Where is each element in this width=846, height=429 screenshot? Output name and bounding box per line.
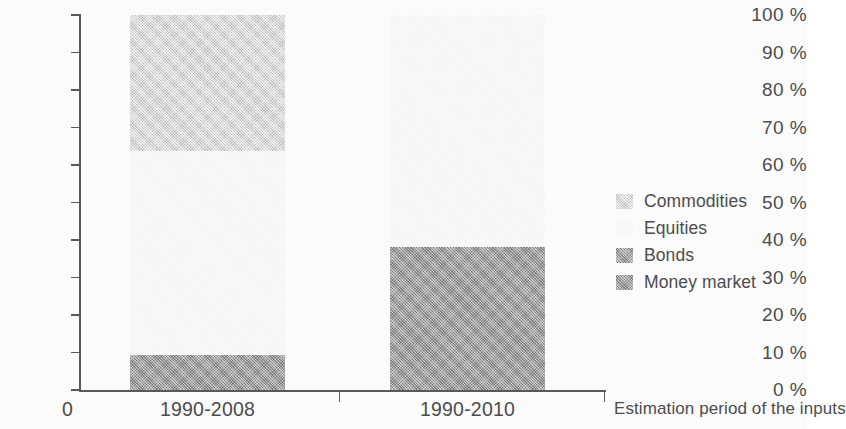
bar-segment-equities xyxy=(130,151,285,355)
x-axis-title: Estimation period of the inputs xyxy=(614,399,846,419)
legend-item-commodities[interactable]: Commodities xyxy=(616,188,756,215)
x-axis-line xyxy=(79,390,606,392)
bar-segment-money-market xyxy=(130,355,285,390)
legend-label: Money market xyxy=(644,272,756,293)
y-axis-tick xyxy=(71,314,80,315)
legend-label: Equities xyxy=(644,218,707,239)
commodities-swatch xyxy=(616,194,633,209)
money-market-swatch xyxy=(616,275,633,290)
y-axis-tick xyxy=(71,52,80,53)
y-axis-tick-label: 0 % xyxy=(741,379,807,401)
y-axis-tick xyxy=(71,89,80,90)
bar-segment-money-market xyxy=(390,247,545,390)
y-axis-tick-label: 10 % xyxy=(741,342,807,364)
y-axis-tick-label: 90 % xyxy=(741,42,807,64)
chart-legend: CommoditiesEquitiesBondsMoney market xyxy=(616,188,756,296)
y-axis-tick xyxy=(71,239,80,240)
y-axis-tick xyxy=(71,389,80,390)
y-axis-tick-label: 20 % xyxy=(741,304,807,326)
bar-1990-2008 xyxy=(130,15,285,390)
equities-swatch xyxy=(616,221,633,236)
x-axis-tick-separator xyxy=(339,391,340,402)
bonds-swatch xyxy=(616,248,633,263)
y-axis-tick xyxy=(71,14,80,15)
y-axis-tick-label: 70 % xyxy=(741,117,807,139)
legend-label: Bonds xyxy=(644,245,694,266)
bar-1990-2010 xyxy=(390,15,545,390)
legend-label: Commodities xyxy=(644,191,747,212)
plot-area xyxy=(80,15,605,390)
y-axis-tick xyxy=(71,277,80,278)
x-axis-category-label: 1990-2010 xyxy=(378,398,558,421)
origin-label: 0 xyxy=(62,398,73,421)
legend-item-money-market[interactable]: Money market xyxy=(616,269,756,296)
legend-item-equities[interactable]: Equities xyxy=(616,215,756,242)
y-axis-tick-label: 60 % xyxy=(741,154,807,176)
bar-segment-commodities xyxy=(130,15,285,151)
bar-segment-equities xyxy=(390,15,545,247)
x-axis-tick-end xyxy=(604,391,605,402)
y-axis-tick-label: 80 % xyxy=(741,79,807,101)
y-axis-tick xyxy=(71,352,80,353)
y-axis-tick-label: 100 % xyxy=(741,4,807,26)
legend-item-bonds[interactable]: Bonds xyxy=(616,242,756,269)
x-axis-category-label: 1990-2008 xyxy=(118,398,298,421)
y-axis-tick xyxy=(71,202,80,203)
y-axis-tick xyxy=(71,164,80,165)
y-axis-tick xyxy=(71,127,80,128)
